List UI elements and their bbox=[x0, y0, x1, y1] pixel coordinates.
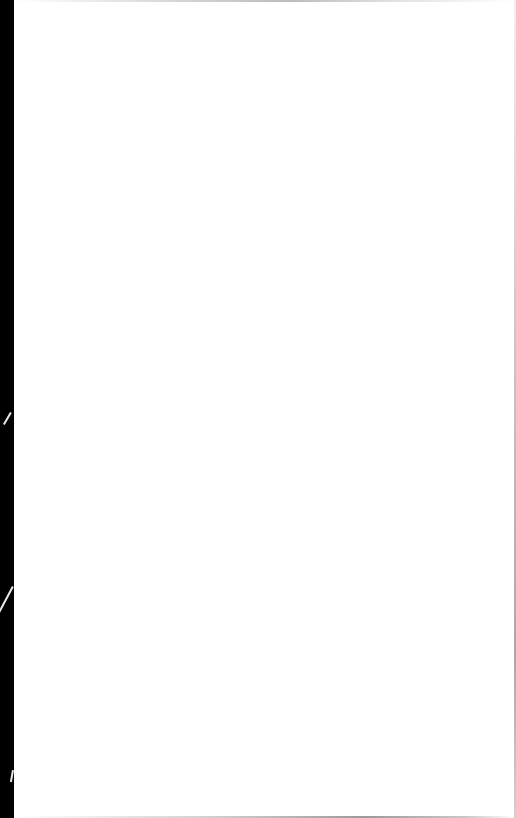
paper-tear-mark bbox=[10, 770, 14, 782]
paper-tear-mark bbox=[0, 586, 14, 615]
scan-binding-edge bbox=[0, 0, 14, 818]
scan-top-edge bbox=[14, 0, 516, 2]
paper-tear-mark bbox=[3, 412, 12, 425]
blank-page bbox=[0, 0, 516, 818]
